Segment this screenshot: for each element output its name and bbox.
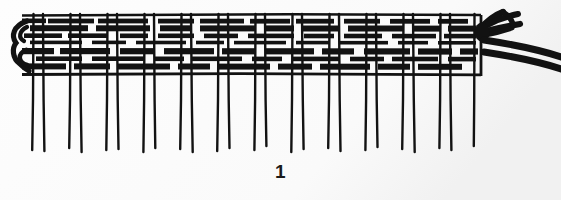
- top-selvedge-line: [22, 14, 481, 15]
- weft-row-6: [36, 56, 476, 61]
- weft-row-3: [24, 33, 476, 38]
- weft-row-8-fell-line: [22, 74, 481, 75]
- weft-row-4: [30, 41, 476, 45]
- figure-caption: 1: [0, 160, 561, 184]
- weft-row-5: [22, 48, 478, 55]
- weft-row-7: [22, 63, 462, 69]
- weaving-figure: Woven band construction diagram: [0, 0, 561, 200]
